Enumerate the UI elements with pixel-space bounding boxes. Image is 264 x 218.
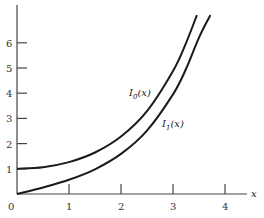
curve-label-i0: I0(x)	[128, 87, 151, 101]
y-tick-label: 3	[6, 113, 12, 124]
x-axis-label: x	[251, 188, 257, 199]
y-tick-label: 5	[6, 63, 12, 74]
y-tick-label: 1	[6, 164, 12, 175]
x-tick-label: 4	[222, 201, 228, 212]
curve-i0	[17, 15, 197, 169]
x-tick-label: 3	[170, 201, 176, 212]
x-tick-label: 1	[66, 201, 72, 212]
y-tick-label: 2	[6, 139, 12, 150]
curve-label-i1: I1(x)	[161, 118, 184, 132]
x-tick-label: 0	[8, 201, 14, 212]
bessel-chart: 123456 01234 x I0(x) I1(x)	[0, 0, 264, 218]
y-tick-label: 4	[6, 88, 12, 99]
y-tick-label: 6	[6, 38, 12, 49]
x-tick-label: 2	[118, 201, 124, 212]
